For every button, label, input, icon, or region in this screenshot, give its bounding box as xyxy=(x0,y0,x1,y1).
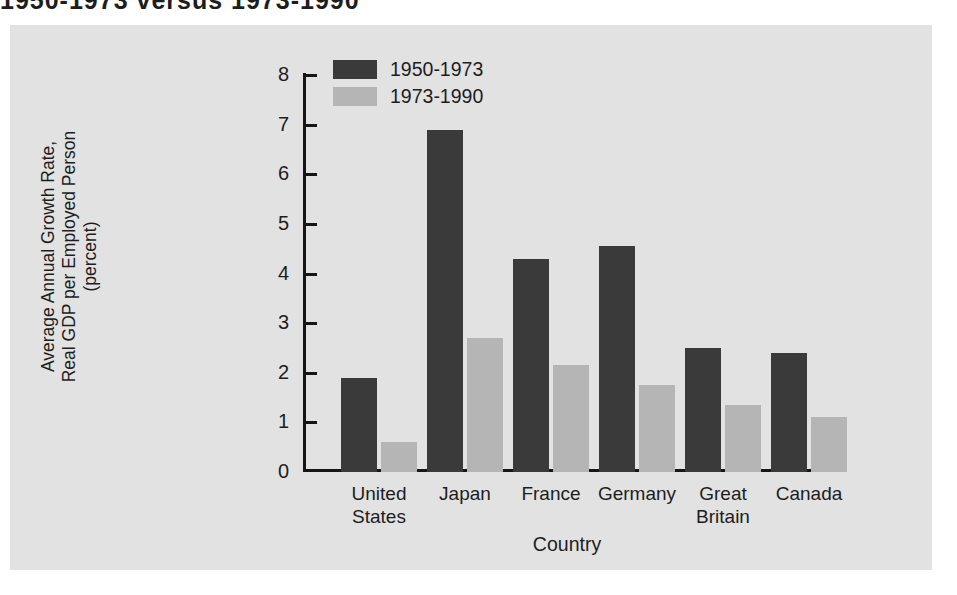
y-axis-tick-label-7: 7 xyxy=(259,114,289,134)
y-axis-tick-3 xyxy=(306,322,317,325)
legend-swatch-icon-series-1 xyxy=(333,60,377,79)
y-axis-tick-7 xyxy=(306,124,317,127)
bar-france-1950-1973 xyxy=(513,259,549,472)
y-axis-tick-label-4: 4 xyxy=(259,263,289,283)
y-axis-tick-4 xyxy=(306,273,317,276)
legend-item-series-1: 1950-1973 xyxy=(333,58,483,81)
x-axis-label-canada: Canada xyxy=(749,482,869,505)
figure-title: 1950-1973 versus 1973-1990 xyxy=(0,0,520,12)
y-axis-tick-label-6: 6 xyxy=(259,163,289,183)
bar-great-britain-1950-1973 xyxy=(685,348,721,472)
y-axis-tick-label-8: 8 xyxy=(259,64,289,84)
chart-legend: 1950-1973 1973-1990 xyxy=(333,58,483,112)
y-axis-tick-label-2: 2 xyxy=(259,362,289,382)
bar-united-states-1973-1990 xyxy=(381,442,417,472)
legend-label-series-2: 1973-1990 xyxy=(390,85,483,108)
x-axis-label-line-2: States xyxy=(319,505,439,528)
y-axis-tick-6 xyxy=(306,173,317,176)
bar-canada-1950-1973 xyxy=(771,353,807,472)
bar-canada-1973-1990 xyxy=(811,417,847,472)
x-axis-title: Country xyxy=(303,533,831,556)
y-axis-tick-label-1: 1 xyxy=(259,411,289,431)
bar-japan-1973-1990 xyxy=(467,338,503,472)
bar-france-1973-1990 xyxy=(553,365,589,472)
bar-germany-1950-1973 xyxy=(599,246,635,472)
y-axis-tick-label-0: 0 xyxy=(259,461,289,481)
y-axis-tick-8 xyxy=(306,74,317,77)
plot-area: 012345678 Average Annual Growth Rate, Re… xyxy=(10,25,932,570)
y-axis-tick-label-5: 5 xyxy=(259,213,289,233)
bar-great-britain-1973-1990 xyxy=(725,405,761,472)
legend-item-series-2: 1973-1990 xyxy=(333,85,483,108)
y-axis-tick-1 xyxy=(306,421,317,424)
y-axis-title: Average Annual Growth Rate, Real GDP per… xyxy=(38,92,101,422)
x-axis-label-line-2: Britain xyxy=(663,505,783,528)
legend-swatch-icon-series-2 xyxy=(333,87,377,106)
x-axis-label-line-1: Canada xyxy=(749,482,869,505)
y-axis-tick-label-3: 3 xyxy=(259,312,289,332)
chart-panel: 012345678 Average Annual Growth Rate, Re… xyxy=(10,25,932,570)
y-axis-tick-5 xyxy=(306,223,317,226)
y-axis-title-line-1: Average Annual Growth Rate, xyxy=(38,92,59,422)
bar-united-states-1950-1973 xyxy=(341,378,377,472)
y-axis-title-line-3: (percent) xyxy=(80,92,101,422)
y-axis-title-line-2: Real GDP per Employed Person xyxy=(59,92,80,422)
legend-label-series-1: 1950-1973 xyxy=(390,58,483,81)
bar-japan-1950-1973 xyxy=(427,130,463,472)
y-axis-tick-2 xyxy=(306,372,317,375)
bar-germany-1973-1990 xyxy=(639,385,675,472)
